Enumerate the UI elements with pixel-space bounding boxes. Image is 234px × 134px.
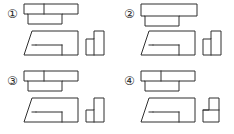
option-4-views — [139, 69, 234, 132]
option-3-label: ③ — [5, 74, 20, 89]
option-3-side-view — [86, 98, 104, 122]
option-1-side-view — [86, 31, 104, 55]
option-1[interactable]: ① — [0, 0, 117, 67]
option-2-views — [139, 2, 234, 65]
option-2[interactable]: ② — [117, 0, 234, 67]
option-3-views — [22, 69, 117, 132]
option-4-label: ④ — [122, 74, 137, 89]
option-2-top-view — [141, 4, 197, 26]
option-3[interactable]: ③ — [0, 67, 117, 134]
option-1-views — [22, 2, 117, 65]
option-2-side-view — [203, 31, 221, 55]
option-1-front-view — [24, 31, 78, 55]
figure-sheet: ① ② — [0, 0, 234, 134]
option-2-label: ② — [122, 7, 137, 22]
option-4-front-view — [141, 98, 195, 122]
option-4-top-view — [141, 71, 195, 91]
option-1-top-view — [24, 4, 78, 24]
option-3-top-view — [24, 71, 78, 91]
option-3-front-view — [24, 98, 78, 122]
option-1-label: ① — [5, 7, 20, 22]
option-4[interactable]: ④ — [117, 67, 234, 134]
option-4-side-view — [203, 98, 219, 122]
option-2-front-view — [141, 31, 195, 55]
